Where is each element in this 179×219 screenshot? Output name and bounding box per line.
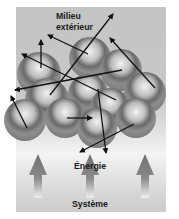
particle xyxy=(4,99,46,141)
energy-arrow-left xyxy=(29,154,47,198)
particle xyxy=(77,108,117,148)
energy-arrow-right xyxy=(136,154,154,198)
environment-label-line2: extérieur xyxy=(56,21,93,32)
particle xyxy=(116,98,156,138)
particle-diagram xyxy=(0,0,179,219)
environment-label: Milieu extérieur xyxy=(56,10,93,32)
particles xyxy=(4,37,166,148)
environment-label-line1: Milieu xyxy=(56,10,93,21)
system-label: Système xyxy=(72,198,108,209)
energy-label: Énergie xyxy=(74,160,106,171)
